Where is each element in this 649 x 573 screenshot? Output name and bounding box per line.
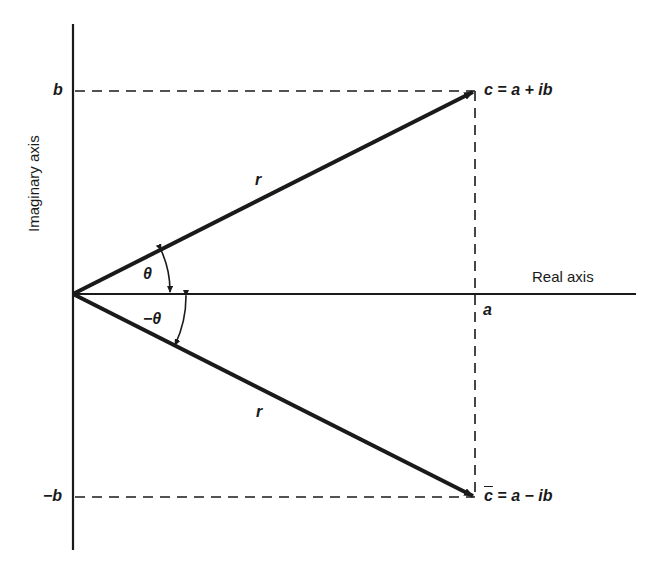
tick-label-neg-b: −b <box>43 488 62 504</box>
angle-label-theta: θ <box>143 266 152 282</box>
angle-arc-neg-theta <box>175 296 186 345</box>
c-symbol: c <box>484 81 493 98</box>
imaginary-axis-label: Imaginary axis <box>26 135 41 232</box>
vector-c <box>73 92 473 294</box>
real-axis-label: Real axis <box>532 269 594 284</box>
tick-label-b: b <box>53 82 63 98</box>
angle-arc-theta <box>161 250 170 292</box>
magnitude-label-upper: r <box>255 172 261 188</box>
c-conjugate-symbol: c <box>484 487 493 504</box>
magnitude-label-lower: r <box>256 404 262 420</box>
point-label-c-conjugate: c = a − ib <box>484 488 553 504</box>
c-expression: = a + ib <box>493 81 553 98</box>
tick-label-a: a <box>483 302 492 318</box>
point-label-c: c = a + ib <box>484 82 553 98</box>
vector-c-conjugate <box>73 294 473 496</box>
angle-label-neg-theta: −θ <box>143 311 161 327</box>
c-conjugate-expression: = a − ib <box>493 487 553 504</box>
